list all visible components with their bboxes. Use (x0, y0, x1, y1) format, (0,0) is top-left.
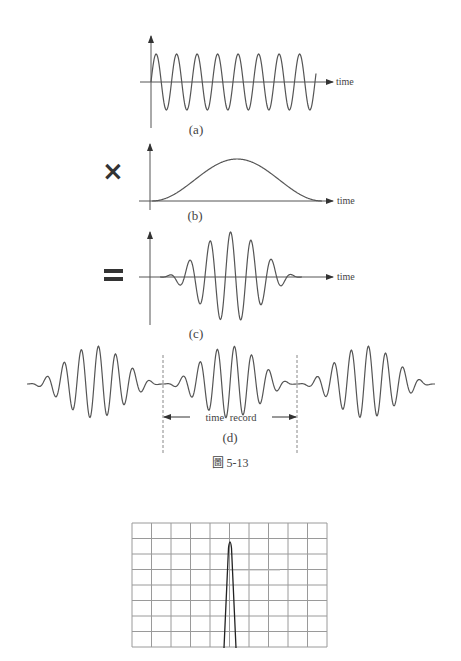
time-axis-label: time (336, 76, 354, 87)
figure-caption: 圖 5-13 (212, 456, 249, 470)
repeated-time-records (27, 346, 435, 418)
panel-b: × time (b) (102, 144, 355, 223)
panel-a: time (a) (140, 36, 354, 137)
multiply-operator: × (102, 156, 124, 186)
panel-c: time (c) (104, 232, 355, 341)
panel-d: time record (d) 圖 5-13 (27, 346, 435, 470)
equals-operator-top (104, 269, 123, 273)
equals-operator-bottom (104, 277, 123, 281)
panel-label: (d) (222, 430, 237, 445)
panel-label: (a) (189, 122, 203, 137)
time-axis-label: time (337, 195, 355, 206)
windowed-sine-wave (160, 232, 302, 320)
spectrum-grid (132, 523, 327, 647)
panel-label: (c) (189, 326, 203, 341)
time-record-label: time record (205, 412, 257, 423)
time-axis-label: time (337, 271, 355, 282)
figure-canvas: time (a) × time (b) time (c) time record… (0, 0, 461, 661)
window-function (152, 159, 322, 201)
panel-label: (b) (187, 208, 202, 223)
spectrum-display (132, 523, 327, 648)
